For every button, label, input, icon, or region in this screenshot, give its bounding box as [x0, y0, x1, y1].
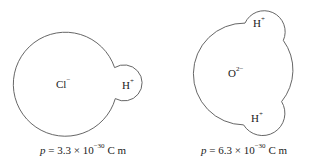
dipole-unit: C m [105, 144, 126, 156]
dipole-exponent: −30 [255, 142, 266, 150]
hcl-dipole-caption: p = 3.3 × 10−30 C m [40, 145, 126, 156]
atom-symbol: O [228, 67, 236, 79]
atom-label-h: H+ [122, 80, 134, 91]
atom-charge: + [261, 15, 265, 23]
atom-label-h-bottom: H+ [251, 113, 263, 124]
atom-label-o: O2− [228, 68, 243, 79]
dipole-value: = 6.3 × 10 [207, 144, 255, 156]
dipole-value: = 3.3 × 10 [46, 144, 94, 156]
dipole-exponent: −30 [94, 142, 105, 150]
atom-charge: + [130, 77, 134, 85]
atom-symbol: H [253, 17, 261, 29]
atom-label-h-top: H+ [253, 18, 265, 29]
atom-symbol: H [122, 79, 130, 91]
atom-label-cl: Cl− [56, 79, 70, 90]
h2o-dipole-caption: p = 6.3 × 10−30 C m [201, 145, 287, 156]
atom-charge: 2− [236, 65, 243, 73]
atom-charge: − [66, 76, 70, 84]
atom-symbol: Cl [56, 78, 66, 90]
atom-symbol: H [251, 112, 259, 124]
atom-charge: + [259, 110, 263, 118]
dipole-unit: C m [266, 144, 287, 156]
